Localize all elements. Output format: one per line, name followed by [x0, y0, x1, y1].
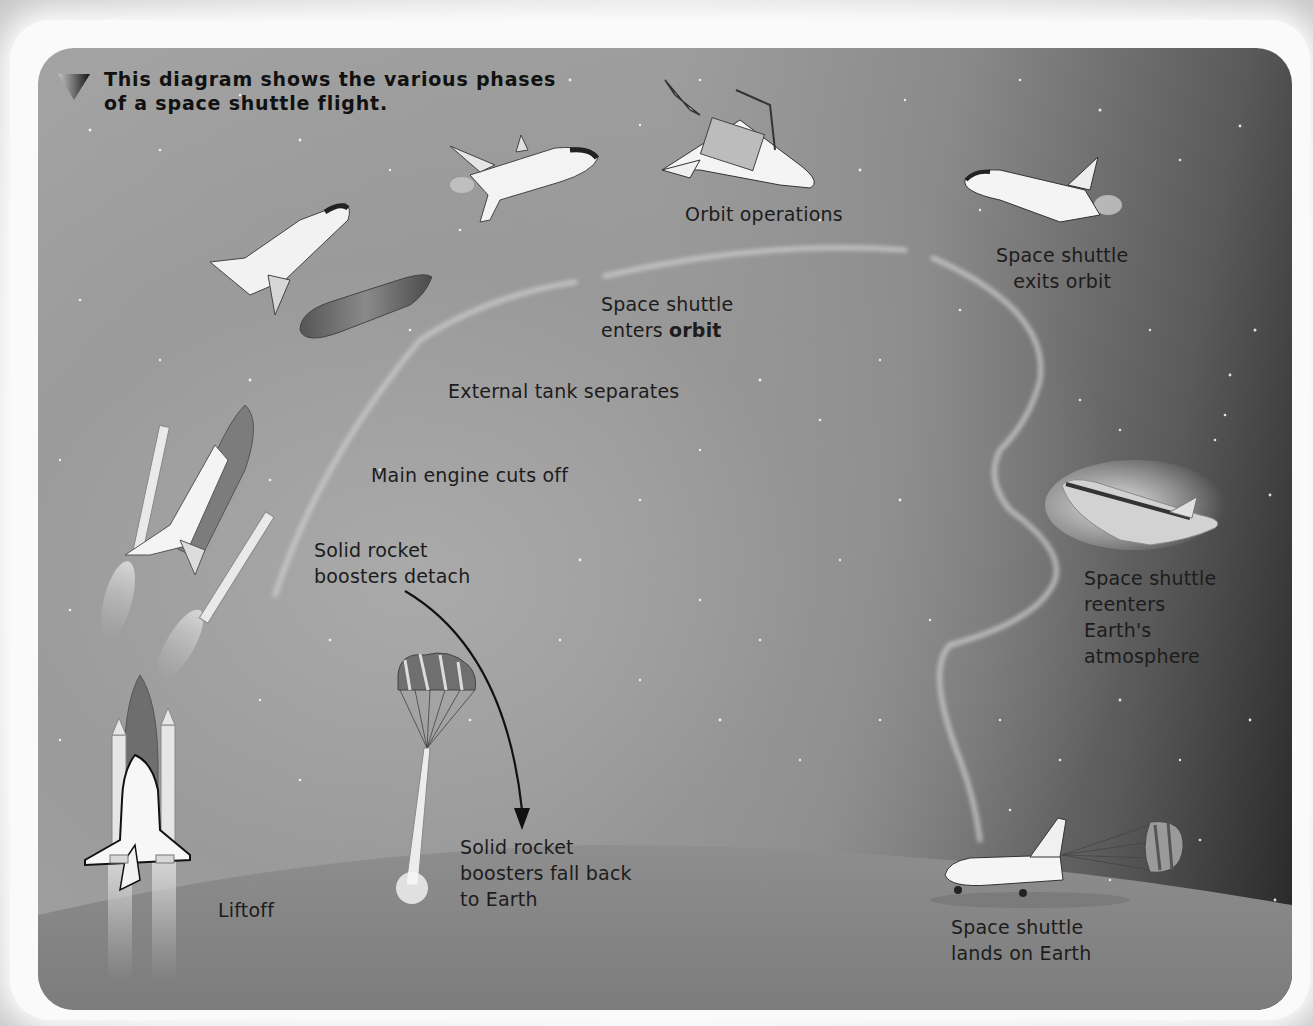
- caption-line-1: This diagram shows the various phases: [104, 67, 556, 91]
- label-line: enters orbit: [601, 317, 733, 343]
- shuttle-exiting-orbit: [965, 157, 1122, 222]
- diagram-panel: This diagram shows the various phases of…: [38, 48, 1292, 1010]
- label-srb-detach: Solid rocket boosters detach: [314, 537, 470, 589]
- label-line: boosters fall back: [460, 860, 632, 886]
- label-line: boosters detach: [314, 563, 470, 589]
- label-line: Orbit operations: [685, 201, 843, 227]
- label-reenters-atmosphere: Space shuttle reenters Earth's atmospher…: [1084, 565, 1216, 669]
- label-line: Liftoff: [218, 897, 274, 923]
- caption-line-2: of a space shuttle flight.: [104, 91, 556, 115]
- shuttle-and-external-tank-separating: [210, 203, 432, 338]
- shuttle-with-boosters-ascending: [94, 405, 274, 687]
- label-line: reenters: [1084, 591, 1216, 617]
- label-main-engine-cutoff: Main engine cuts off: [371, 462, 568, 488]
- label-lands-on-earth: Space shuttle lands on Earth: [951, 914, 1091, 966]
- label-external-tank-separates: External tank separates: [448, 378, 679, 404]
- label-enters-orbit: Space shuttle enters orbit: [601, 291, 733, 343]
- label-line: Space shuttle: [951, 914, 1091, 940]
- label-line: Main engine cuts off: [371, 462, 568, 488]
- shuttle-orbit-operations-payload-bay-open: [662, 80, 814, 188]
- glossary-term-orbit: orbit: [669, 319, 722, 341]
- label-line: exits orbit: [996, 268, 1128, 294]
- shuttle-entering-orbit: [450, 135, 598, 222]
- label-line: Earth's: [1084, 617, 1216, 643]
- label-line: Space shuttle: [601, 291, 733, 317]
- label-line: atmosphere: [1084, 643, 1216, 669]
- label-line: to Earth: [460, 886, 632, 912]
- label-orbit-operations: Orbit operations: [685, 201, 843, 227]
- earth-surface: [38, 845, 1292, 1010]
- label-text: enters: [601, 319, 669, 341]
- label-line: Space shuttle: [996, 242, 1128, 268]
- label-line: Solid rocket: [460, 834, 632, 860]
- label-exits-orbit: Space shuttle exits orbit: [996, 242, 1128, 294]
- label-srb-fall-back: Solid rocket boosters fall back to Earth: [460, 834, 632, 912]
- triangle-down-icon: [54, 70, 94, 104]
- label-line: Solid rocket: [314, 537, 470, 563]
- label-line: Space shuttle: [1084, 565, 1216, 591]
- diagram-canvas: [38, 48, 1292, 1010]
- label-liftoff: Liftoff: [218, 897, 274, 923]
- diagram-caption: This diagram shows the various phases of…: [104, 67, 556, 115]
- shuttle-reentry-heat-glow: [1045, 460, 1225, 550]
- label-line: lands on Earth: [951, 940, 1091, 966]
- label-line: External tank separates: [448, 378, 679, 404]
